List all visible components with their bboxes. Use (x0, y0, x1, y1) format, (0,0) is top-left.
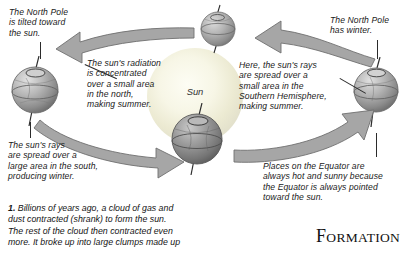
body-paragraph: 1. Billions of years ago, a cloud of gas… (8, 203, 240, 249)
globe-top-center (196, 3, 242, 55)
section-heading-initial: F (316, 226, 326, 246)
orbit-arrow-bottom-right (232, 112, 382, 164)
section-heading-rest: ORMATION (326, 230, 400, 245)
body-paragraph-text: Billions of years ago, a cloud of gas an… (8, 203, 180, 247)
leader-north-pole-tilted (40, 42, 41, 59)
callout-north-pole-tilted: The North Pole is tilted toward the sun. (9, 7, 129, 38)
section-heading: FORMATION (316, 226, 400, 247)
leader-north-pole-winter (377, 40, 378, 59)
callout-north-pole-winter: The North Pole has winter. (330, 15, 419, 36)
callout-equator-hot: Places on the Equator are always hot and… (263, 161, 415, 202)
callout-radiation-concentrated: The sun's radiation is concentrated over… (87, 58, 197, 109)
leader-equator-hot (376, 133, 377, 157)
leader-rays-spread-south (30, 122, 31, 138)
seasons-diagram-page: Sun (0, 0, 419, 255)
callout-rays-southern-hemisphere: Here, the sun's rays are spread over a s… (239, 60, 361, 111)
callout-rays-spread-south: The sun's rays are spread over a large a… (8, 140, 148, 181)
